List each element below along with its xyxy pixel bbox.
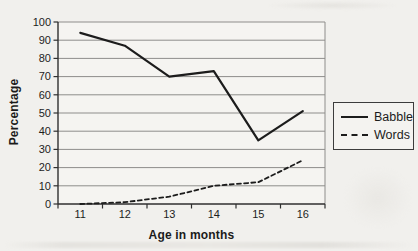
y-tick-label: 30	[39, 143, 51, 155]
y-axis-title: Percentage	[7, 52, 21, 172]
legend-label-words: Words	[374, 129, 410, 142]
legend: BabbleWords	[333, 102, 414, 150]
legend-label-babble: Babble	[374, 111, 413, 124]
y-tick-label: 0	[45, 198, 51, 210]
x-tick-label: 12	[119, 208, 131, 220]
x-tick-label: 16	[297, 208, 309, 220]
y-tick-label: 100	[33, 16, 51, 28]
y-tick-label: 40	[39, 125, 51, 137]
babble-line-swatch	[341, 116, 368, 118]
y-tick-label: 90	[39, 34, 51, 46]
x-tick-label: 15	[252, 208, 264, 220]
legend-item-words: Words	[341, 129, 406, 142]
y-tick-label: 10	[39, 180, 51, 192]
y-tick-label: 20	[39, 161, 51, 173]
legend-item-babble: Babble	[341, 111, 406, 124]
x-axis-title: Age in months	[58, 228, 325, 242]
x-tick-label: 13	[163, 208, 175, 220]
y-tick-label: 50	[39, 107, 51, 119]
x-tick-label: 14	[208, 208, 220, 220]
y-tick-label: 60	[39, 89, 51, 101]
figure: 0102030405060708090100111213141516 Perce…	[0, 0, 418, 251]
y-tick-label: 70	[39, 70, 51, 82]
x-tick-label: 11	[75, 208, 86, 220]
words-line-swatch	[341, 134, 368, 136]
y-tick-label: 80	[39, 52, 51, 64]
